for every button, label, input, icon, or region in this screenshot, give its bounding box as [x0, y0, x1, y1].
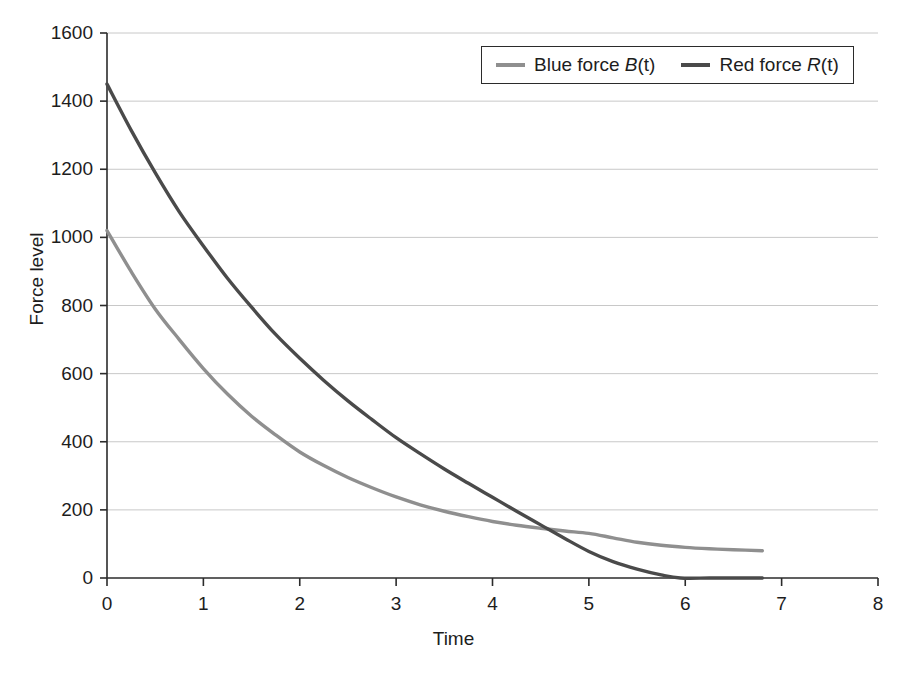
y-tick-label: 1600	[0, 23, 93, 42]
y-axis-ticks	[100, 33, 107, 578]
y-axis-title: Force level	[26, 219, 48, 339]
legend-label: Red force R(t)	[719, 54, 838, 76]
x-tick-label: 7	[752, 594, 812, 613]
x-tick-label: 8	[848, 594, 907, 613]
y-tick-label: 600	[0, 364, 93, 383]
y-tick-label: 400	[0, 432, 93, 451]
x-tick-label: 6	[655, 594, 715, 613]
x-tick-label: 2	[270, 594, 330, 613]
legend-label: Blue force B(t)	[534, 54, 655, 76]
data-series	[107, 84, 762, 578]
legend-item: Blue force B(t)	[496, 54, 655, 76]
legend-swatch-icon	[496, 63, 525, 67]
x-tick-label: 5	[559, 594, 619, 613]
y-tick-label: 0	[0, 568, 93, 587]
y-tick-label: 200	[0, 500, 93, 519]
series-line	[107, 231, 762, 551]
plot-area	[0, 0, 907, 675]
legend-item: Red force R(t)	[681, 54, 838, 76]
x-tick-label: 3	[366, 594, 426, 613]
x-tick-label: 4	[463, 594, 523, 613]
x-tick-label: 1	[173, 594, 233, 613]
y-tick-label: 1200	[0, 159, 93, 178]
chart-legend: Blue force B(t)Red force R(t)	[481, 46, 854, 84]
legend-swatch-icon	[681, 63, 710, 67]
lanchester-force-level-chart: 16001400120010008006004002000 012345678 …	[0, 0, 907, 675]
x-axis-title: Time	[0, 628, 907, 650]
y-tick-label: 1400	[0, 91, 93, 110]
series-line	[107, 84, 762, 578]
x-tick-label: 0	[77, 594, 137, 613]
